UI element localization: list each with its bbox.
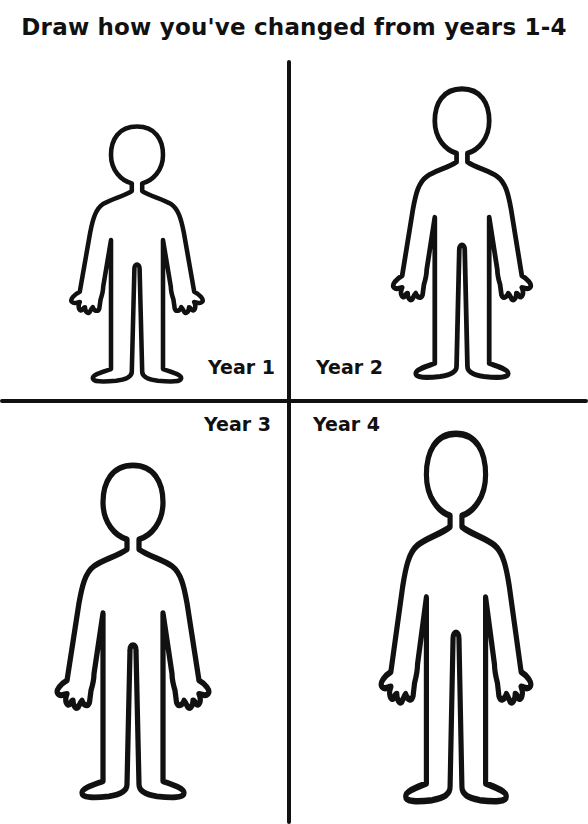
panel-label-year-1: Year 1 <box>208 356 275 378</box>
horizontal-divider <box>0 399 588 403</box>
panel-label-year-4: Year 4 <box>313 413 380 435</box>
vertical-divider <box>287 60 291 824</box>
person-outline-icon-year-2 <box>394 86 530 378</box>
worksheet-title: Draw how you've changed from years 1-4 <box>0 14 588 40</box>
panel-label-year-3: Year 3 <box>204 413 271 435</box>
person-outline-icon-year-3 <box>58 462 208 798</box>
person-outline-icon-year-1 <box>72 124 202 382</box>
person-outline-icon-year-4 <box>382 430 530 802</box>
panel-label-year-2: Year 2 <box>316 356 383 378</box>
